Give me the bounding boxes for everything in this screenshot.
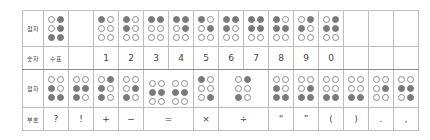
braille-dot-icon [235,85,242,92]
braille-dot-icon [273,76,280,83]
braille-cell [69,11,94,47]
braille-dot-icon [173,34,180,41]
braille-dot-icon [57,34,64,41]
number-label: 8 [269,47,294,70]
braille-dot-icon [148,34,155,41]
braille-dots [198,16,215,42]
braille-dot-icon [282,34,289,41]
braille-dot-icon [57,94,64,101]
braille-cell [294,11,319,47]
braille-dot-icon [158,80,165,87]
braille-dot-icon [307,94,314,101]
braille-cell [44,11,69,47]
braille-dots [123,76,140,102]
braille-dots [223,16,240,42]
braille-dot-icon [157,34,164,41]
braille-dots [348,76,365,102]
number-sign-label: 수표 [44,47,69,70]
braille-dots [48,16,65,42]
braille-dot-icon [198,76,205,83]
number-braille-row: 점자 [23,11,419,47]
braille-dot-icon [207,16,214,23]
braille-dot-icon [323,34,330,41]
braille-dot-icon [357,94,364,101]
braille-cell [294,70,319,108]
braille-dot-icon [57,25,64,32]
braille-table: 점자 숫자 수표 1 2 3 4 5 6 7 8 9 0 점자 [22,10,419,131]
braille-dot-icon [298,34,305,41]
braille-dot-icon [48,25,55,32]
braille-dot-icon [348,76,355,83]
braille-dot-icon [298,25,305,32]
braille-dots [323,16,340,42]
braille-dots [48,76,65,102]
braille-dot-icon [149,98,156,105]
braille-dots [323,76,340,102]
braille-cell [219,11,244,47]
braille-dot-icon [398,76,405,83]
braille-dot-icon [181,80,188,87]
braille-dot-icon [235,76,242,83]
braille-cell [194,11,219,47]
braille-dot-icon [172,80,179,87]
braille-dot-icon [332,25,339,32]
braille-dots [149,80,166,106]
braille-dot-icon [382,94,389,101]
braille-dot-icon [223,16,230,23]
braille-dot-icon [282,16,289,23]
number-label: 0 [319,47,344,70]
braille-cell [94,11,119,47]
braille-dot-icon [307,76,314,83]
braille-dot-icon [132,25,139,32]
braille-dot-icon [98,25,105,32]
braille-dot-icon [398,85,405,92]
braille-dot-icon [407,94,414,101]
braille-dot-icon [282,25,289,32]
braille-dot-icon [348,85,355,92]
braille-dot-icon [382,76,389,83]
braille-dot-icon [82,76,89,83]
braille-dot-icon [207,34,214,41]
braille-dot-icon [132,85,139,92]
braille-dot-icon [398,94,405,101]
number-text-row: 숫자 수표 1 2 3 4 5 6 7 8 9 0 [23,47,419,70]
braille-dot-icon [149,80,156,87]
braille-dots [123,16,140,42]
braille-dot-icon [98,85,105,92]
symbol-label: × [194,108,219,131]
braille-dot-icon [73,85,80,92]
braille-dot-icon [123,85,130,92]
braille-dot-icon [149,89,156,96]
braille-dot-icon [257,34,264,41]
braille-dot-icon [257,25,264,32]
braille-cell [94,70,119,108]
symbol-label: ÷ [219,108,269,131]
braille-dot-icon [182,25,189,32]
braille-dot-icon [323,85,330,92]
braille-dot-icon [357,85,364,92]
braille-dots [98,76,115,102]
braille-dot-icon [123,76,130,83]
braille-dot-icon [298,16,305,23]
symbol-label: ( [319,108,344,131]
braille-dot-icon [273,16,280,23]
braille-dot-icon [373,94,380,101]
symbol-label: . [369,108,394,131]
braille-dot-icon [82,85,89,92]
number-label [394,47,419,70]
braille-dot-icon [198,16,205,23]
braille-dot-icon [307,25,314,32]
symbol-label: “ [269,108,294,131]
braille-dot-icon [148,16,155,23]
braille-dot-icon [244,94,251,101]
braille-dot-icon [257,16,264,23]
braille-dot-icon [48,85,55,92]
braille-dot-icon [107,25,114,32]
braille-dot-icon [107,76,114,83]
braille-dot-icon [232,25,239,32]
braille-cell [369,11,394,47]
braille-dots [73,76,90,102]
braille-cell [319,70,344,108]
number-label: 7 [244,47,269,70]
braille-dot-icon [57,16,64,23]
